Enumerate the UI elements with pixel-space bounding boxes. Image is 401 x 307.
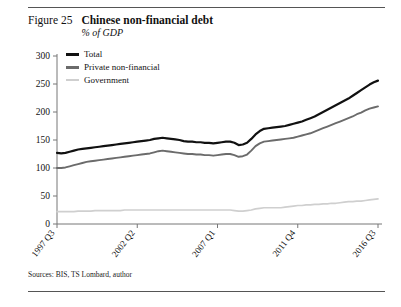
svg-text:200: 200 <box>36 107 51 117</box>
legend-label-private-non-financial: Private non-financial <box>84 62 160 72</box>
svg-text:2016 Q3: 2016 Q3 <box>350 228 377 259</box>
svg-text:300: 300 <box>36 51 51 61</box>
svg-text:250: 250 <box>36 79 51 89</box>
svg-text:100: 100 <box>36 163 51 173</box>
figure-container: Figure 25 Chinese non-financial debt % o… <box>0 0 401 307</box>
svg-text:2007 Q1: 2007 Q1 <box>190 228 217 259</box>
source-note: Sources: BIS, TS Lombard, author <box>28 270 132 279</box>
legend-label-total: Total <box>84 49 102 59</box>
y-axis-tick-labels: 050100150200250300 <box>36 51 51 229</box>
rule-bottom <box>28 291 385 292</box>
legend-swatch-private-non-financial <box>66 66 79 69</box>
x-axis-tick-labels: 1997 Q32002 Q22007 Q12011 Q42016 Q3 <box>29 228 377 259</box>
legend-item-total: Total <box>66 49 160 59</box>
legend-swatch-total <box>66 53 79 56</box>
svg-text:2011 Q4: 2011 Q4 <box>270 228 297 259</box>
svg-text:150: 150 <box>36 135 51 145</box>
chart-plot-area: 050100150200250300 1997 Q32002 Q22007 Q1… <box>0 0 401 307</box>
svg-text:50: 50 <box>41 191 51 201</box>
chart-svg: 050100150200250300 1997 Q32002 Q22007 Q1… <box>0 0 401 307</box>
svg-text:2002 Q2: 2002 Q2 <box>110 228 137 259</box>
legend-item-government: Government <box>66 75 160 85</box>
svg-text:1997 Q3: 1997 Q3 <box>29 228 56 259</box>
chart-series <box>57 81 378 212</box>
legend-swatch-government <box>66 79 79 81</box>
chart-legend: Total Private non-financial Government <box>66 49 160 85</box>
legend-label-government: Government <box>84 75 129 85</box>
legend-item-private-non-financial: Private non-financial <box>66 62 160 72</box>
